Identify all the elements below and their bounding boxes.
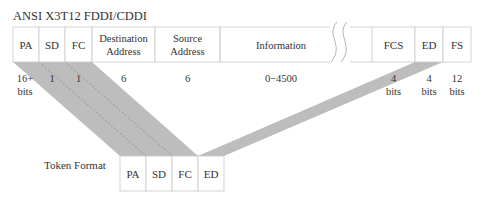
size-source: 6 <box>185 73 190 84</box>
label-sd: SD <box>45 39 59 51</box>
break-wave-icon <box>331 22 347 62</box>
label-source: Source <box>173 33 202 44</box>
size-pa: 16+ <box>17 73 34 84</box>
token-label-sd: SD <box>152 168 166 180</box>
size-fcs-unit: bits <box>386 86 401 97</box>
token-label-fc: FC <box>178 168 191 180</box>
size-fc: 1 <box>76 73 81 84</box>
label-pa: PA <box>19 39 32 51</box>
token-label-ed: ED <box>204 168 219 180</box>
size-destination: 6 <box>121 73 126 84</box>
label-destination-address: Address <box>106 46 140 57</box>
mapping-band-pa-sd-fc <box>13 62 198 156</box>
label-fcs: FCS <box>384 39 404 51</box>
label-ed: ED <box>422 39 437 51</box>
size-fs-unit: bits <box>449 86 464 97</box>
size-ed: 4 <box>426 73 432 84</box>
diagram-title: ANSI X3T12 FDDI/CDDI <box>13 9 147 23</box>
token-label-pa: PA <box>126 168 139 180</box>
label-fs: FS <box>451 39 463 51</box>
size-fcs: 4 <box>391 73 397 84</box>
mapping-band-ed <box>198 62 443 156</box>
token-format-label: Token Format <box>44 159 106 171</box>
label-information: Information <box>256 40 307 51</box>
label-destination: Destination <box>99 33 148 44</box>
size-information: 0−4500 <box>265 73 297 84</box>
size-sd: 1 <box>49 73 54 84</box>
label-source-address: Address <box>170 46 204 57</box>
size-ed-unit: bits <box>421 86 436 97</box>
size-pa-unit: bits <box>17 86 32 97</box>
fddi-frame-diagram: ANSI X3T12 FDDI/CDDI PA SD FC Destinatio… <box>0 0 484 201</box>
label-fc: FC <box>72 39 85 51</box>
size-fs: 12 <box>452 73 463 84</box>
